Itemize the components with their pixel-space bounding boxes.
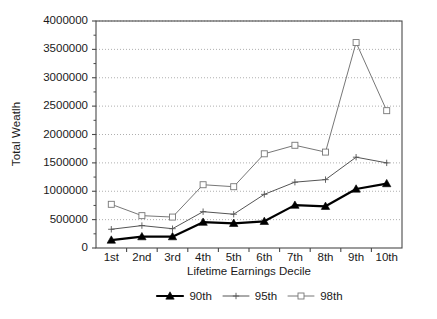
x-axis-title: Lifetime Earnings Decile: [96, 265, 402, 277]
y-tick-label: 2000000: [8, 129, 88, 141]
x-tick-label-10th: 10th: [365, 251, 409, 263]
y-tick-label: 1500000: [8, 157, 88, 169]
legend-label: 98th: [320, 290, 342, 302]
legend-marker-plus-icon: [221, 290, 251, 302]
y-tick-label: 3000000: [8, 72, 88, 84]
legend-marker-filled-triangle-icon: [155, 290, 185, 302]
y-tick-label: 4000000: [8, 15, 88, 27]
y-tick-label: 500000: [8, 214, 88, 226]
legend-item-95th[interactable]: 95th: [221, 290, 277, 302]
y-tick-label: 3500000: [8, 43, 88, 55]
y-axis-ticks: [92, 21, 96, 248]
chart-legend: 90th95th98th: [96, 290, 402, 302]
y-tick-label: 0: [8, 242, 88, 254]
series-90th: [107, 179, 391, 243]
legend-item-90th[interactable]: 90th: [155, 290, 211, 302]
legend-marker-open-square-icon: [286, 290, 316, 302]
legend-item-98th[interactable]: 98th: [286, 290, 342, 302]
y-tick-label: 2500000: [8, 100, 88, 112]
chart-container: Total Weatlh 050000010000001500000200000…: [0, 0, 437, 319]
y-axis-tick-labels: 0500000100000015000002000000250000030000…: [0, 0, 88, 319]
legend-label: 95th: [255, 290, 277, 302]
y-tick-label: 1000000: [8, 185, 88, 197]
legend-label: 90th: [189, 290, 211, 302]
